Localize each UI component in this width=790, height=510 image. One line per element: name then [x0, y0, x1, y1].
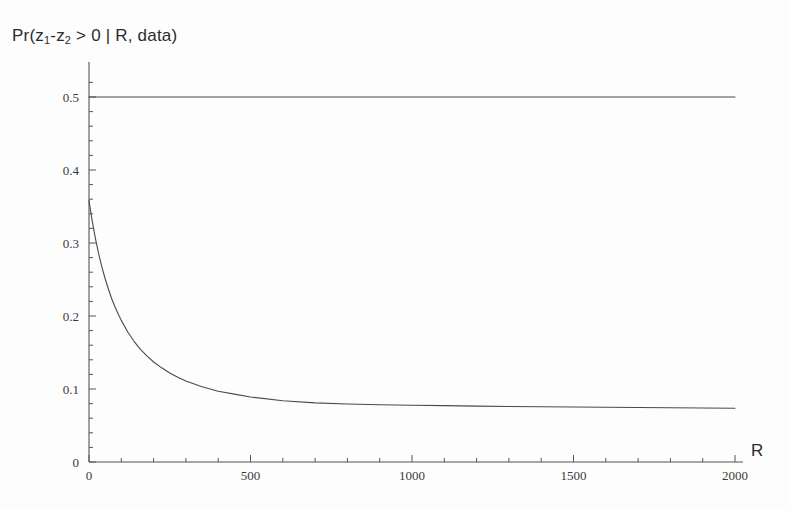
x-axis-tick-label: 2000: [722, 468, 748, 483]
x-axis-tick-label: 1000: [399, 468, 425, 483]
axes-group: [89, 62, 743, 462]
y-axis-tick-label: 0.5: [63, 90, 79, 105]
y-axis-tick-label: 0.2: [63, 309, 79, 324]
series-posterior-probability: [89, 201, 735, 409]
y-axis-tick-label: 0.1: [63, 382, 79, 397]
y-axis-tick-label: 0: [73, 455, 80, 470]
axis-name-group: R: [751, 441, 763, 460]
x-axis-tick-label: 1500: [561, 468, 587, 483]
x-axis-name-label: R: [751, 441, 763, 460]
line-chart: 050010001500200000.10.20.30.40.5 R: [0, 0, 790, 510]
x-axis-tick-label: 500: [241, 468, 261, 483]
y-axis-tick-label: 0.4: [63, 163, 80, 178]
tick-labels-group: 050010001500200000.10.20.30.40.5: [63, 90, 748, 483]
figure-canvas: Pr(z1-z2 > 0 | R, data) 0500100015002000…: [0, 0, 790, 510]
y-axis-tick-label: 0.3: [63, 236, 79, 251]
x-axis-tick-label: 0: [86, 468, 93, 483]
series-group: [89, 97, 735, 408]
